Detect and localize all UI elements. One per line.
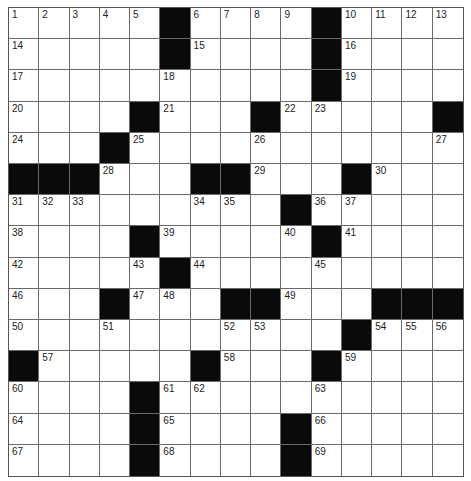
grid-cell[interactable] [372,258,402,289]
grid-cell[interactable]: 32 [39,195,69,226]
grid-cell[interactable]: 4 [100,8,130,39]
grid-cell[interactable]: 31 [9,195,39,226]
grid-cell[interactable] [251,382,281,413]
grid-cell[interactable] [433,39,463,70]
grid-cell[interactable] [281,39,311,70]
grid-cell[interactable] [191,102,221,133]
grid-cell[interactable]: 21 [160,102,190,133]
grid-cell[interactable] [342,102,372,133]
grid-cell[interactable] [100,382,130,413]
grid-cell[interactable]: 68 [160,445,190,476]
grid-cell[interactable] [402,258,432,289]
grid-cell[interactable] [433,226,463,257]
grid-cell[interactable] [100,414,130,445]
grid-cell[interactable] [100,70,130,101]
grid-cell[interactable]: 45 [312,258,342,289]
grid-cell[interactable] [433,258,463,289]
grid-cell[interactable] [281,164,311,195]
grid-cell[interactable] [372,195,402,226]
grid-cell[interactable] [221,445,251,476]
grid-cell[interactable] [100,195,130,226]
grid-cell[interactable] [221,382,251,413]
grid-cell[interactable] [402,70,432,101]
grid-cell[interactable]: 17 [9,70,39,101]
grid-cell[interactable] [160,351,190,382]
grid-cell[interactable]: 53 [251,320,281,351]
grid-cell[interactable] [251,258,281,289]
grid-cell[interactable]: 16 [342,39,372,70]
grid-cell[interactable] [70,382,100,413]
grid-cell[interactable] [191,414,221,445]
grid-cell[interactable]: 29 [251,164,281,195]
grid-cell[interactable] [100,39,130,70]
grid-cell[interactable] [372,445,402,476]
grid-cell[interactable]: 14 [9,39,39,70]
grid-cell[interactable] [221,258,251,289]
grid-cell[interactable] [191,133,221,164]
grid-cell[interactable]: 66 [312,414,342,445]
grid-cell[interactable] [100,351,130,382]
grid-cell[interactable] [433,414,463,445]
grid-cell[interactable] [70,39,100,70]
grid-cell[interactable] [312,133,342,164]
grid-cell[interactable] [191,226,221,257]
grid-cell[interactable] [100,445,130,476]
grid-cell[interactable] [39,320,69,351]
grid-cell[interactable]: 59 [342,351,372,382]
grid-cell[interactable]: 11 [372,8,402,39]
grid-cell[interactable] [433,445,463,476]
grid-cell[interactable]: 69 [312,445,342,476]
grid-cell[interactable]: 67 [9,445,39,476]
grid-cell[interactable]: 48 [160,289,190,320]
grid-cell[interactable]: 9 [281,8,311,39]
grid-cell[interactable] [160,164,190,195]
grid-cell[interactable]: 47 [130,289,160,320]
grid-cell[interactable]: 38 [9,226,39,257]
grid-cell[interactable] [130,39,160,70]
grid-cell[interactable] [70,351,100,382]
grid-cell[interactable] [160,320,190,351]
grid-cell[interactable]: 42 [9,258,39,289]
grid-cell[interactable] [433,351,463,382]
grid-cell[interactable] [251,445,281,476]
grid-cell[interactable]: 8 [251,8,281,39]
grid-cell[interactable]: 46 [9,289,39,320]
grid-cell[interactable] [342,445,372,476]
grid-cell[interactable] [221,133,251,164]
grid-cell[interactable] [191,320,221,351]
grid-cell[interactable]: 63 [312,382,342,413]
grid-cell[interactable]: 15 [191,39,221,70]
grid-cell[interactable]: 18 [160,70,190,101]
grid-cell[interactable]: 22 [281,102,311,133]
grid-cell[interactable] [312,320,342,351]
grid-cell[interactable] [433,70,463,101]
grid-cell[interactable] [221,70,251,101]
grid-cell[interactable] [342,289,372,320]
grid-cell[interactable] [70,320,100,351]
grid-cell[interactable] [281,258,311,289]
grid-cell[interactable]: 41 [342,226,372,257]
grid-cell[interactable] [130,70,160,101]
grid-cell[interactable]: 6 [191,8,221,39]
grid-cell[interactable] [342,414,372,445]
grid-cell[interactable]: 30 [372,164,402,195]
grid-cell[interactable] [372,39,402,70]
grid-cell[interactable] [402,226,432,257]
grid-cell[interactable] [39,414,69,445]
grid-cell[interactable]: 3 [70,8,100,39]
grid-cell[interactable] [402,445,432,476]
grid-cell[interactable]: 27 [433,133,463,164]
grid-cell[interactable]: 12 [402,8,432,39]
grid-cell[interactable] [402,414,432,445]
grid-cell[interactable] [70,445,100,476]
grid-cell[interactable] [39,289,69,320]
grid-cell[interactable] [251,414,281,445]
grid-cell[interactable] [70,258,100,289]
grid-cell[interactable] [372,133,402,164]
grid-cell[interactable] [130,164,160,195]
grid-cell[interactable]: 13 [433,8,463,39]
grid-cell[interactable] [372,102,402,133]
grid-cell[interactable] [70,102,100,133]
grid-cell[interactable] [342,382,372,413]
grid-cell[interactable] [130,320,160,351]
